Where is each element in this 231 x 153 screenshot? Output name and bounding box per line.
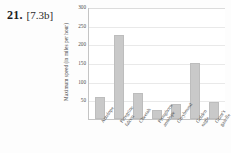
plot-area [88, 8, 225, 120]
problem-label: 21. [7.3b] [7, 8, 53, 23]
bar-slot [110, 8, 129, 119]
y-tick-label: 300 [73, 5, 86, 10]
plot-area-wrapper: 50100150200250300 [73, 8, 225, 120]
x-axis-category-labels: AntelopePeregrinefalconCheetahPronghorna… [88, 121, 225, 153]
bar-chart: Maximum speed (in miles per hour) 501001… [62, 7, 226, 151]
worksheet-problem-panel: 21. [7.3b] Maximum speed (in miles per h… [0, 0, 231, 153]
problem-reference: [7.3b] [27, 9, 54, 21]
y-axis-tick-labels: 50100150200250300 [73, 8, 87, 120]
bar [114, 35, 124, 119]
y-tick-label: 200 [73, 43, 86, 48]
bar-series [89, 8, 225, 119]
y-tick-label: 150 [73, 61, 86, 66]
y-tick-label: 250 [73, 24, 86, 29]
bar [190, 63, 200, 119]
bar-slot [204, 8, 223, 119]
problem-number: 21. [7, 8, 23, 23]
bar-slot [148, 8, 167, 119]
y-axis-title: Maximum speed (in miles per hour) [62, 7, 71, 117]
bar-slot [129, 8, 148, 119]
y-tick-label: 50 [73, 99, 86, 104]
bar-slot [91, 8, 110, 119]
y-tick-label: 100 [73, 80, 86, 85]
